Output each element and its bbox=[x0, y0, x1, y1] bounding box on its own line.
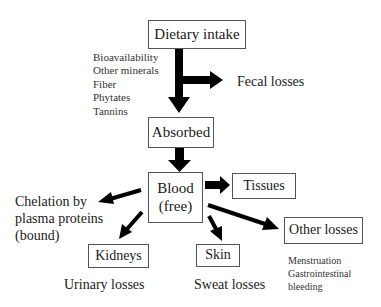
inhibitor-item: Phytates bbox=[93, 91, 159, 104]
cause-item: Menstruation bbox=[288, 254, 351, 267]
node-kidneys-label: Kidneys bbox=[95, 248, 142, 264]
chelation-label: Chelation by plasma proteins (bound) bbox=[15, 193, 103, 244]
fecal-losses-label: Fecal losses bbox=[237, 74, 304, 91]
chelation-line: Chelation by bbox=[15, 193, 103, 210]
node-tissues: Tissues bbox=[232, 173, 296, 199]
arrow-to-fecal-losses bbox=[183, 71, 223, 89]
node-blood-sublabel: (free) bbox=[159, 198, 192, 215]
arrow-absorbed-to-blood bbox=[168, 147, 191, 172]
node-other-losses-label: Other losses bbox=[289, 222, 358, 238]
node-blood: Blood (free) bbox=[148, 172, 203, 223]
node-blood-label: Blood bbox=[157, 180, 194, 197]
inhibitor-item: Fiber bbox=[93, 78, 159, 91]
inhibitor-item: Bioavailability bbox=[93, 51, 159, 64]
inhibitor-item: Other minerals bbox=[93, 64, 159, 77]
node-dietary-intake-label: Dietary intake bbox=[154, 26, 239, 43]
node-absorbed-label: Absorbed bbox=[152, 124, 210, 141]
node-skin-label: Skin bbox=[205, 247, 231, 263]
node-dietary-intake: Dietary intake bbox=[148, 20, 246, 49]
node-kidneys: Kidneys bbox=[88, 244, 149, 268]
node-tissues-label: Tissues bbox=[243, 178, 285, 194]
iron-metabolism-diagram: Dietary intake Bioavailability Other min… bbox=[0, 0, 381, 307]
arrow-blood-to-chelation bbox=[98, 190, 141, 204]
node-other-losses: Other losses bbox=[284, 217, 363, 244]
node-skin: Skin bbox=[196, 244, 240, 267]
sweat-losses-label: Sweat losses bbox=[194, 277, 265, 294]
chelation-line: (bound) bbox=[15, 227, 103, 244]
arrow-blood-to-skin bbox=[209, 216, 222, 241]
urinary-losses-label: Urinary losses bbox=[64, 277, 145, 294]
cause-item: bleeding bbox=[288, 280, 351, 293]
other-losses-causes: Menstruation Gastrointestinal bleeding bbox=[288, 254, 351, 293]
arrow-blood-to-kidneys bbox=[119, 212, 142, 239]
chelation-line: plasma proteins bbox=[15, 210, 103, 227]
inhibitors-list: Bioavailability Other minerals Fiber Phy… bbox=[93, 51, 159, 118]
arrow-blood-to-tissues bbox=[205, 176, 230, 194]
arrow-blood-to-other-losses bbox=[208, 205, 279, 230]
node-absorbed: Absorbed bbox=[148, 117, 214, 148]
cause-item: Gastrointestinal bbox=[288, 267, 351, 280]
